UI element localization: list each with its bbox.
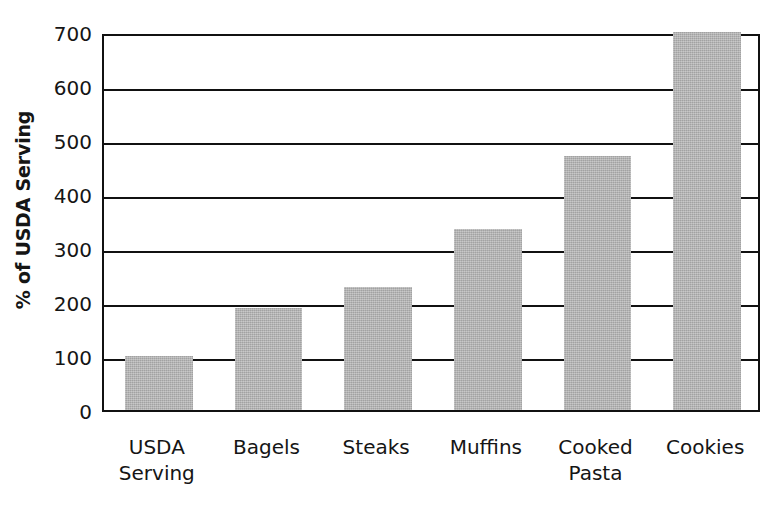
- bar: [454, 229, 522, 410]
- x-axis-tick-label: Bagels: [212, 434, 322, 460]
- y-axis-tick-label: 100: [54, 346, 92, 370]
- y-axis-tick-label: 400: [54, 184, 92, 208]
- plot-area: [102, 34, 760, 412]
- x-axis-tick-label: Steaks: [321, 434, 431, 460]
- bars-group: [104, 36, 758, 410]
- x-axis-tick-label: Muffins: [431, 434, 541, 460]
- y-axis-tick-label: 200: [54, 292, 92, 316]
- bar: [344, 287, 412, 410]
- bar: [235, 308, 303, 410]
- x-axis-tick-label: Cookies: [650, 434, 760, 460]
- x-axis-tick-label: Cooked Pasta: [541, 434, 651, 486]
- y-axis-tick-label: 300: [54, 238, 92, 262]
- x-axis-tick-label: USDA Serving: [102, 434, 212, 486]
- y-axis-tick-labels: 0100200300400500600700: [40, 0, 98, 528]
- y-axis-tick-label: 0: [79, 400, 92, 424]
- bar-chart: % of USDA Serving 0100200300400500600700…: [0, 0, 775, 528]
- y-axis-title-label: % of USDA Serving: [12, 111, 34, 309]
- bar: [673, 32, 741, 410]
- y-axis-tick-label: 700: [54, 22, 92, 46]
- y-axis-tick-label: 600: [54, 76, 92, 100]
- bar: [564, 156, 632, 410]
- y-axis-tick-label: 500: [54, 130, 92, 154]
- bar: [125, 356, 193, 410]
- x-axis-tick-labels: USDA ServingBagelsSteaksMuffinsCooked Pa…: [102, 420, 760, 510]
